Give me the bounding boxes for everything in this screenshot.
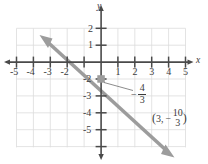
y-tick-label--5: -5: [83, 125, 91, 135]
y-tick-label--2: -2: [83, 74, 91, 84]
x-tick-label-2: 2: [132, 67, 137, 77]
marked-points: [97, 75, 105, 83]
x-tick-label--2: -2: [61, 67, 69, 77]
y-tick-label-2: 2: [88, 24, 93, 34]
point-marker-y-intercept: [97, 75, 105, 83]
y-tick-label-1: 1: [88, 40, 93, 50]
point-annotation: ( 3, − 10 3 ): [152, 108, 187, 128]
point-minus-sign: −: [166, 113, 172, 124]
y-tick-label--4: -4: [83, 108, 91, 118]
coordinate-plane-figure: -5 -4 -3 -2 1 2 3 4 5 2 1 -2 -3 -4 -5 x …: [0, 0, 208, 164]
slope-annotation: − 4 3: [131, 83, 146, 105]
point-close-paren: ): [183, 111, 187, 126]
slope-fraction: 4 3: [138, 83, 146, 105]
x-axis-arrow-left: [4, 59, 10, 64]
point-x-value: 3,: [156, 113, 164, 124]
point-fraction: 10 3: [173, 108, 183, 128]
x-tick-label-4: 4: [166, 67, 171, 77]
y-tick-label--3: -3: [83, 91, 91, 101]
x-tick-label-3: 3: [149, 67, 154, 77]
slope-leader-line: [104, 83, 133, 91]
y-axis-label: y: [97, 2, 101, 12]
x-axis-arrow-right: [188, 59, 194, 64]
slope-denominator: 3: [139, 95, 146, 106]
point-denominator: 3: [175, 118, 180, 128]
x-tick-label--4: -4: [27, 67, 35, 77]
x-tick-label-5: 5: [183, 67, 188, 77]
slope-minus-sign: −: [131, 89, 137, 100]
slope-numerator: 4: [139, 83, 146, 94]
x-tick-label--5: -5: [10, 67, 18, 77]
x-axis-label: x: [196, 56, 200, 66]
y-axis-arrow-down: [98, 154, 103, 160]
graph-canvas: [0, 0, 208, 164]
x-tick-label--3: -3: [44, 67, 52, 77]
x-tick-label-1: 1: [116, 67, 121, 77]
